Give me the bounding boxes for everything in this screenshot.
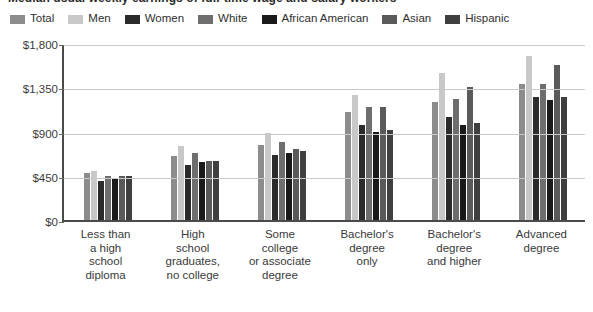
bar[interactable] xyxy=(547,100,553,220)
x-axis-label-line: only xyxy=(324,255,411,269)
bar[interactable] xyxy=(519,84,525,220)
legend-item[interactable]: African American xyxy=(262,13,369,25)
legend-swatch-icon xyxy=(10,15,25,24)
bar[interactable] xyxy=(112,179,118,220)
legend-swatch-icon xyxy=(262,15,277,24)
bar[interactable] xyxy=(432,102,438,220)
bar[interactable] xyxy=(272,155,278,220)
bar[interactable] xyxy=(460,125,466,220)
legend-item[interactable]: Women xyxy=(125,13,184,25)
legend-item[interactable]: Asian xyxy=(382,13,431,25)
x-axis-label-line: Less than xyxy=(62,228,149,242)
bar[interactable] xyxy=(526,56,532,220)
legend-item[interactable]: Men xyxy=(68,13,110,25)
x-axis-label-line: school xyxy=(149,242,236,256)
bar[interactable] xyxy=(185,165,191,220)
bar[interactable] xyxy=(126,176,132,220)
bar[interactable] xyxy=(359,125,365,220)
y-tick-label: $1,350 xyxy=(23,83,58,95)
x-axis-label-line: and higher xyxy=(411,255,498,269)
y-tick-label: $900 xyxy=(32,128,58,140)
bar[interactable] xyxy=(467,87,473,220)
bar[interactable] xyxy=(178,146,184,220)
legend-item[interactable]: Hispanic xyxy=(445,13,509,25)
bar[interactable] xyxy=(286,153,292,220)
bar[interactable] xyxy=(345,112,351,220)
y-tick-label: $0 xyxy=(45,216,58,228)
x-axis-label-line: no college xyxy=(149,269,236,283)
x-axis-label-line: Advanced xyxy=(498,228,585,242)
gridline xyxy=(64,134,585,135)
bar[interactable] xyxy=(84,173,90,220)
bar[interactable] xyxy=(554,65,560,220)
bar-group xyxy=(64,45,151,220)
bar[interactable] xyxy=(98,181,104,220)
bar[interactable] xyxy=(105,176,111,220)
gridline xyxy=(64,178,585,179)
chart-legend: TotalMenWomenWhiteAfrican AmericanAsianH… xyxy=(10,10,588,28)
bar[interactable] xyxy=(119,176,125,220)
bar[interactable] xyxy=(446,117,452,220)
bar[interactable] xyxy=(352,95,358,220)
bar[interactable] xyxy=(439,73,445,221)
x-axis-label: Highschoolgraduates,no college xyxy=(149,228,236,282)
bar[interactable] xyxy=(279,142,285,220)
bar[interactable] xyxy=(213,161,219,220)
bar[interactable] xyxy=(192,153,198,220)
bar-group xyxy=(238,45,325,220)
x-axis-label-line: degree xyxy=(498,242,585,256)
y-axis-tick xyxy=(59,222,64,223)
legend-swatch-icon xyxy=(68,15,83,24)
bar[interactable] xyxy=(206,161,212,220)
y-axis-tick xyxy=(59,134,64,135)
bar[interactable] xyxy=(561,97,567,220)
plot-area xyxy=(62,45,585,222)
x-axis-label: Less thana highschooldiploma xyxy=(62,228,149,282)
y-axis-tick xyxy=(59,178,64,179)
bar[interactable] xyxy=(258,145,264,220)
bar[interactable] xyxy=(265,133,271,220)
bar[interactable] xyxy=(533,97,539,220)
legend-swatch-icon xyxy=(198,15,213,24)
bar[interactable] xyxy=(387,130,393,220)
x-axis-label-line: Bachelor's xyxy=(324,228,411,242)
legend-swatch-icon xyxy=(125,15,140,24)
bar[interactable] xyxy=(474,123,480,220)
bar-group xyxy=(413,45,500,220)
bar-groups xyxy=(64,45,585,220)
x-axis-label-line: degree xyxy=(411,242,498,256)
y-axis-labels: $0$450$900$1,350$1,800 xyxy=(0,45,58,222)
bar[interactable] xyxy=(171,156,177,220)
bar[interactable] xyxy=(300,151,306,220)
legend-label: White xyxy=(218,13,247,25)
chart-title: Median usual weekly earnings of full-tim… xyxy=(8,0,397,5)
legend-label: Total xyxy=(30,13,54,25)
gridline xyxy=(64,45,585,46)
chart-container: Median usual weekly earnings of full-tim… xyxy=(0,0,593,312)
x-axis-label-line: degree xyxy=(236,269,323,283)
x-axis-labels: Less thana highschooldiplomaHighschoolgr… xyxy=(62,228,585,310)
legend-swatch-icon xyxy=(445,15,460,24)
bar[interactable] xyxy=(453,99,459,220)
legend-item[interactable]: White xyxy=(198,13,247,25)
x-axis-label-line: Bachelor's xyxy=(411,228,498,242)
legend-item[interactable]: Total xyxy=(10,13,54,25)
y-tick-label: $450 xyxy=(32,172,58,184)
x-axis-label-line: a high xyxy=(62,242,149,256)
x-axis-label-line: graduates, xyxy=(149,255,236,269)
legend-label: Asian xyxy=(402,13,431,25)
bar-group xyxy=(500,45,587,220)
bar[interactable] xyxy=(380,107,386,220)
x-axis-label: Advanceddegree xyxy=(498,228,585,255)
bar[interactable] xyxy=(540,84,546,220)
bar[interactable] xyxy=(373,132,379,221)
bar-group xyxy=(326,45,413,220)
x-axis-label-line: degree xyxy=(324,242,411,256)
bar[interactable] xyxy=(366,107,372,220)
bar[interactable] xyxy=(293,149,299,220)
bar[interactable] xyxy=(199,162,205,220)
x-axis-label-line: college xyxy=(236,242,323,256)
y-axis-tick xyxy=(59,45,64,46)
legend-label: African American xyxy=(282,13,369,25)
legend-label: Men xyxy=(88,13,110,25)
